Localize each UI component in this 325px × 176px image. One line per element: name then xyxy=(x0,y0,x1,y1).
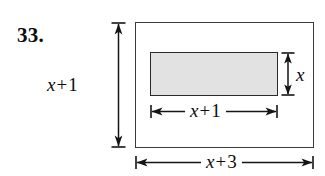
inner-shaded-rectangle xyxy=(150,52,278,96)
dimension-line-outer-height xyxy=(110,22,127,148)
label-outer-height: x+1 xyxy=(47,75,78,94)
label-outer-width-operator: + xyxy=(214,151,227,172)
label-inner-width-operator: + xyxy=(198,100,211,121)
label-outer-height-operator: + xyxy=(55,74,68,95)
label-inner-height-operator xyxy=(304,64,306,85)
label-outer-width: x+3 xyxy=(201,152,242,171)
label-inner-height: x xyxy=(296,65,306,84)
dimension-line-inner-height xyxy=(279,52,296,96)
label-outer-height-constant: 1 xyxy=(68,74,78,95)
problem-number: 33. xyxy=(17,25,44,46)
double-arrow-vertical-icon xyxy=(279,52,296,96)
label-inner-width: x+1 xyxy=(185,101,226,120)
geometry-figure: 33. x+1 x xyxy=(0,0,325,176)
double-arrow-vertical-icon xyxy=(110,22,127,148)
label-inner-width-constant: 1 xyxy=(211,100,221,121)
label-outer-width-constant: 3 xyxy=(227,151,237,172)
